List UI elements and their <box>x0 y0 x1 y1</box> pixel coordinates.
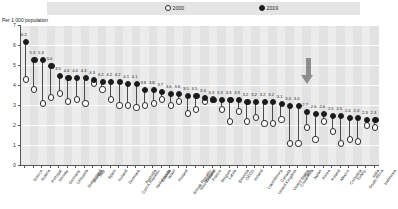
x-axis-tick-mark <box>263 165 264 168</box>
data-label-2019: 4.4 <box>64 69 70 73</box>
data-point-2019 <box>227 97 233 103</box>
data-point-2000 <box>236 108 242 114</box>
data-label-2019: 3.8 <box>140 81 146 85</box>
data-label-2019: 5.0 <box>47 57 53 61</box>
x-axis-tick-mark <box>50 165 51 168</box>
y-axis-tick-mark <box>18 165 20 166</box>
y-axis-tick-label: 5 <box>3 62 16 68</box>
x-axis-tick-mark <box>92 165 93 168</box>
data-point-2000 <box>330 128 336 134</box>
data-point-2000 <box>176 98 182 104</box>
data-point-2019 <box>176 91 182 97</box>
data-label-2019: 3.8 <box>149 81 155 85</box>
data-label-2019: 3.6 <box>174 85 180 89</box>
x-axis-tick-mark <box>289 165 290 168</box>
x-axis-tick-mark <box>58 165 59 168</box>
data-point-2000 <box>227 118 233 124</box>
data-point-2000 <box>125 102 131 108</box>
x-axis-tick-mark <box>229 165 230 168</box>
column-band <box>370 25 379 165</box>
data-label-2019: 3.1 <box>277 95 283 99</box>
data-point-2000 <box>270 120 276 126</box>
data-label-2019: 4.1 <box>132 75 138 79</box>
data-point-2000 <box>99 86 105 92</box>
gridline <box>21 145 379 146</box>
data-point-2000 <box>219 106 225 112</box>
x-axis-tick-mark <box>271 165 272 168</box>
data-label-2019: 3.2 <box>268 93 274 97</box>
x-axis-tick-mark <box>212 165 213 168</box>
data-point-2000 <box>57 90 63 96</box>
gridline <box>21 65 379 66</box>
data-label-2019: 2.4 <box>345 109 351 113</box>
x-axis-tick-mark <box>331 165 332 168</box>
legend-label-2019: 2019 <box>267 5 279 11</box>
data-point-2019 <box>330 113 336 119</box>
data-point-2000 <box>168 102 174 108</box>
data-label-2019: 3.5 <box>183 87 189 91</box>
x-axis-category-label: Indonesia <box>384 169 398 186</box>
y-axis-tick-mark <box>18 45 20 46</box>
data-point-2019 <box>31 57 37 63</box>
x-axis-tick-mark <box>365 165 366 168</box>
y-axis-tick-label: 2 <box>3 122 16 128</box>
data-point-2019 <box>296 103 302 109</box>
data-point-2019 <box>117 79 123 85</box>
x-axis-category-label: Denmark <box>128 169 141 185</box>
data-label-2019: 4.4 <box>81 69 87 73</box>
x-axis-category-label: Italy <box>98 169 106 178</box>
data-label-2019: 2.5 <box>328 107 334 111</box>
x-axis-tick-mark <box>195 165 196 168</box>
data-point-2019 <box>313 111 319 117</box>
data-label-2019: 4.1 <box>123 75 129 79</box>
data-label-2019: 2.3 <box>371 111 377 115</box>
data-label-2019: 3.2 <box>251 93 257 97</box>
x-axis-tick-mark <box>357 165 358 168</box>
data-point-2019 <box>236 97 242 103</box>
data-point-2000 <box>244 118 250 124</box>
data-label-2019: 4.4 <box>72 69 78 73</box>
data-label-2019: 2.5 <box>336 107 342 111</box>
data-point-2000 <box>355 138 361 144</box>
column-band <box>30 25 39 165</box>
x-axis-tick-mark <box>41 165 42 168</box>
legend-item-2000: 2000 <box>165 4 184 13</box>
data-label-2019: 4.2 <box>98 73 104 77</box>
data-point-2019 <box>83 75 89 81</box>
data-point-2000 <box>40 100 46 106</box>
x-axis-tick-mark <box>84 165 85 168</box>
data-point-2000 <box>108 96 114 102</box>
data-point-2000 <box>142 102 148 108</box>
x-axis-tick-mark <box>348 165 349 168</box>
connector-line <box>42 59 43 103</box>
data-point-2019 <box>100 79 106 85</box>
x-axis-tick-mark <box>186 165 187 168</box>
y-axis-tick-label: 0 <box>3 162 16 168</box>
data-label-2019: 3.2 <box>260 93 266 97</box>
data-label-2019: 3.3 <box>217 91 223 95</box>
data-label-2019: 2.6 <box>319 105 325 109</box>
filled-circle-icon <box>259 5 265 11</box>
data-point-2019 <box>279 101 285 107</box>
x-axis-tick-mark <box>280 165 281 168</box>
data-point-2000 <box>116 102 122 108</box>
data-point-2000 <box>372 124 378 130</box>
x-axis-tick-mark <box>110 165 111 168</box>
column-band <box>319 25 328 165</box>
x-axis-tick-mark <box>246 165 247 168</box>
connector-line <box>315 113 316 139</box>
data-point-2019 <box>262 99 268 105</box>
data-point-2019 <box>159 89 165 95</box>
plot-area <box>20 25 379 166</box>
data-label-2019: 6.2 <box>21 33 27 37</box>
data-point-2000 <box>312 136 318 142</box>
x-axis-tick-mark <box>340 165 341 168</box>
data-point-2000 <box>338 140 344 146</box>
gridline <box>21 125 379 126</box>
y-axis-tick-label: 1 <box>3 142 16 148</box>
data-point-2000 <box>287 140 293 146</box>
data-point-2019 <box>108 79 114 85</box>
data-point-2019 <box>210 97 216 103</box>
data-label-2019: 3.5 <box>192 87 198 91</box>
data-point-2019 <box>202 95 208 101</box>
